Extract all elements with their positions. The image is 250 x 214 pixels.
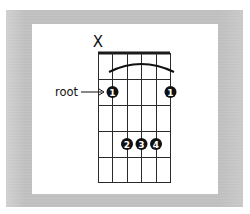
finger-dot-4: 4 bbox=[150, 138, 162, 150]
svg-text:1: 1 bbox=[167, 88, 173, 98]
muted-string-marker: X bbox=[93, 33, 103, 51]
svg-text:2: 2 bbox=[124, 140, 130, 150]
root-label: root bbox=[55, 85, 79, 99]
svg-text:1: 1 bbox=[109, 88, 115, 98]
finger-dot-1: 1 bbox=[165, 86, 177, 98]
root-arrow-icon bbox=[81, 89, 104, 95]
chord-diagram: X root 1 1 2 3 bbox=[0, 0, 250, 214]
finger-dot-3: 3 bbox=[136, 138, 148, 150]
svg-text:3: 3 bbox=[138, 140, 144, 150]
nut bbox=[98, 52, 170, 55]
finger-dot-2: 2 bbox=[121, 138, 133, 150]
svg-text:4: 4 bbox=[153, 140, 159, 150]
finger-dot-root: 1 bbox=[107, 86, 119, 98]
